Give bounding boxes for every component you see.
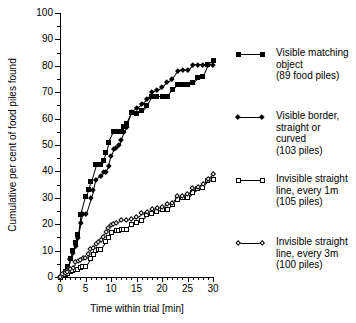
data-point-series-1 [88, 179, 93, 184]
y-axis-tick-label: 10 [42, 246, 53, 256]
legend-label-line: (89 food piles) [276, 70, 356, 82]
y-axis-minor-tick [57, 185, 60, 186]
y-axis-tick [55, 171, 60, 172]
data-point-series-3 [83, 264, 88, 269]
y-axis-tick [55, 66, 60, 67]
x-axis-minor-tick [203, 277, 204, 280]
x-axis-minor-tick [126, 277, 127, 280]
y-axis-minor-tick [57, 132, 60, 133]
legend-marker [236, 52, 241, 57]
legend-label-line: Visible border, [276, 110, 356, 122]
x-axis-minor-tick [96, 277, 97, 280]
y-axis-tick [55, 39, 60, 40]
legend-label: Visible border,straight orcurved(103 pil… [276, 110, 356, 156]
y-axis-tick [55, 251, 60, 252]
legend-line [240, 117, 260, 118]
legend-line [240, 243, 260, 244]
x-axis-minor-tick [182, 277, 183, 280]
plot-area: 0102030405060708090100051015202530 [60, 13, 213, 277]
legend-label-line: Visible matching [276, 47, 356, 59]
x-axis-minor-tick [147, 277, 148, 280]
y-axis-tick-label: 90 [42, 34, 53, 44]
x-axis-tick-label: 15 [131, 284, 142, 294]
legend-marker [235, 114, 240, 119]
legend-label-line: object [276, 59, 356, 71]
data-point-series-1 [139, 108, 144, 113]
x-axis-minor-tick [177, 277, 178, 280]
y-axis-tick-label: 0 [47, 272, 53, 282]
legend-marker [260, 52, 265, 57]
legend-symbol [232, 48, 270, 60]
data-point-series-1 [106, 140, 111, 145]
y-axis-minor-tick [57, 79, 60, 80]
x-axis-tick-label: 25 [182, 284, 193, 294]
x-axis-minor-tick [172, 277, 173, 280]
data-point-series-2 [180, 67, 185, 72]
data-point-series-3 [124, 227, 129, 232]
y-axis-tick-label: 20 [42, 219, 53, 229]
x-axis-tick-label: 20 [156, 284, 167, 294]
legend-marker [260, 178, 265, 183]
legend-label: Invisible straightline, every 1m(105 pil… [276, 173, 356, 208]
x-axis-minor-tick [101, 277, 102, 280]
x-axis-minor-tick [167, 277, 168, 280]
y-axis-tick-label: 80 [42, 61, 53, 71]
x-axis-minor-tick [70, 277, 71, 280]
x-axis-tick [162, 277, 163, 282]
y-axis-minor-tick [57, 237, 60, 238]
x-axis-tick-label: 5 [83, 284, 89, 294]
legend-label-line: curved [276, 133, 356, 145]
x-axis-minor-tick [198, 277, 199, 280]
data-point-series-1 [165, 94, 170, 99]
data-point-series-1 [190, 80, 195, 85]
legend-line [240, 180, 260, 181]
x-axis-tick [86, 277, 87, 282]
y-axis-tick [55, 198, 60, 199]
data-point-series-2 [88, 195, 93, 200]
y-axis-tick [55, 13, 60, 14]
y-axis-tick-label: 50 [42, 140, 53, 150]
y-axis-label: Cumulative per cent of food piles found [6, 13, 20, 277]
y-axis-tick [55, 119, 60, 120]
x-axis-tick [188, 277, 189, 282]
data-point-series-1 [144, 103, 149, 108]
chart-page: Cumulative per cent of food piles found … [0, 0, 356, 323]
x-axis-minor-tick [116, 277, 117, 280]
x-axis-minor-tick [75, 277, 76, 280]
legend-label-line: line, every 3m [276, 248, 356, 260]
y-axis-minor-tick [57, 158, 60, 159]
y-axis-tick-label: 30 [42, 193, 53, 203]
data-point-series-2 [119, 137, 124, 142]
data-point-series-3 [139, 218, 144, 223]
legend-marker [259, 240, 265, 246]
x-axis-minor-tick [106, 277, 107, 280]
legend-symbol [232, 237, 270, 249]
y-axis-label-container: Cumulative per cent of food piles found [8, 13, 22, 277]
y-axis-minor-tick [57, 264, 60, 265]
legend-line [240, 54, 260, 55]
x-axis-minor-tick [152, 277, 153, 280]
y-axis-tick-label: 60 [42, 114, 53, 124]
x-axis-minor-tick [65, 277, 66, 280]
legend-label-line: (100 piles) [276, 259, 356, 271]
legend-label-line: (103 piles) [276, 145, 356, 157]
data-point-series-1 [101, 158, 106, 163]
x-axis-minor-tick [157, 277, 158, 280]
legend-marker [236, 178, 241, 183]
x-axis-minor-tick [91, 277, 92, 280]
data-point-series-3 [98, 247, 103, 252]
y-axis-minor-tick [57, 105, 60, 106]
data-point-series-3 [106, 235, 111, 240]
x-axis-minor-tick [142, 277, 143, 280]
data-point-series-2 [185, 67, 190, 72]
x-axis-minor-tick [80, 277, 81, 280]
x-axis-tick [137, 277, 138, 282]
data-point-series-3 [165, 207, 170, 212]
legend-marker [235, 240, 241, 246]
x-axis-tick [213, 277, 214, 282]
y-axis-minor-tick [57, 53, 60, 54]
x-axis-minor-tick [208, 277, 209, 280]
y-axis-tick-label: 70 [42, 87, 53, 97]
y-axis-tick [55, 224, 60, 225]
legend-label-line: (105 piles) [276, 196, 356, 208]
